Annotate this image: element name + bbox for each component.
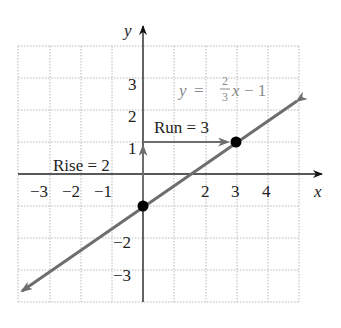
point-3-1: [231, 137, 242, 148]
run-label: Run = 3: [154, 118, 209, 137]
y-axis-label: y: [122, 21, 132, 40]
y-tick-label: −2: [113, 233, 131, 252]
y-tick-label: 2: [128, 107, 137, 126]
svg-text:2: 2: [222, 74, 228, 88]
x-tick-label: −1: [94, 182, 112, 201]
x-tick-label: −3: [30, 182, 48, 201]
svg-text:y: y: [177, 81, 187, 100]
x-axis-label: x: [313, 182, 322, 201]
point-y-intercept: [138, 201, 149, 212]
x-tick-label: 3: [231, 182, 240, 201]
x-tick-label: −2: [62, 182, 80, 201]
svg-text:− 1: − 1: [244, 81, 266, 100]
rise-label: Rise = 2: [53, 156, 110, 175]
y-tick-label: 1: [128, 139, 137, 158]
svg-text:=: =: [194, 81, 204, 100]
y-tick-label: −3: [113, 266, 131, 285]
svg-text:x: x: [231, 81, 240, 100]
coordinate-plane: y x −3 −2 −1 2 3 4 3 2 1 −2 −3 Run = 3 R…: [0, 0, 341, 328]
svg-text:3: 3: [222, 90, 228, 104]
x-tick-label: 4: [262, 182, 271, 201]
x-tick-label: 2: [201, 182, 210, 201]
y-tick-label: 3: [128, 75, 137, 94]
